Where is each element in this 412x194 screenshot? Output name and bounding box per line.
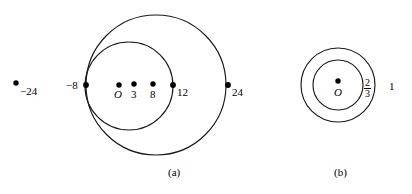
panel-a-label-8: 8 xyxy=(150,89,156,100)
panel-a-point-O-dot xyxy=(116,82,121,87)
geometry-canvas xyxy=(0,0,412,194)
panel-b-inner-circle xyxy=(313,60,363,110)
panel-b-inner-radius-denominator: 3 xyxy=(364,88,371,99)
panel-a-label-12: 12 xyxy=(177,87,188,98)
panel-a-caption: (a) xyxy=(168,166,180,178)
panel-a-point-3-dot xyxy=(131,81,136,86)
panel-b-caption: (b) xyxy=(334,166,347,178)
panel-b-label-O: O xyxy=(334,87,342,98)
panel-a-label-3: 3 xyxy=(131,89,137,100)
panel-a-point-24-dot xyxy=(225,82,231,88)
panel-b-inner-radius-label: 2 3 xyxy=(364,78,371,99)
panel-b-outer-radius-label: 1 xyxy=(389,81,395,92)
panel-a-outer-circle xyxy=(86,15,226,155)
panel-a-point-minus-8-dot xyxy=(83,82,89,88)
panel-a-point-12-dot xyxy=(170,82,176,88)
panel-a-label-24: 24 xyxy=(232,87,243,98)
panel-a-label-O: O xyxy=(114,89,122,100)
panel-b-point-O-dot xyxy=(335,78,340,83)
panel-a-point-minus-24-dot xyxy=(13,80,18,85)
figure-root: −24 −8 O 3 8 12 24 (a) O 2 3 1 (b) xyxy=(0,0,412,194)
panel-a-label-minus-24: −24 xyxy=(20,86,37,97)
panel-a-point-8-dot xyxy=(150,81,155,86)
panel-a-inner-circle xyxy=(85,42,173,130)
panel-a-label-minus-8: −8 xyxy=(66,80,78,91)
panel-b-inner-radius-numerator: 2 xyxy=(364,78,371,88)
